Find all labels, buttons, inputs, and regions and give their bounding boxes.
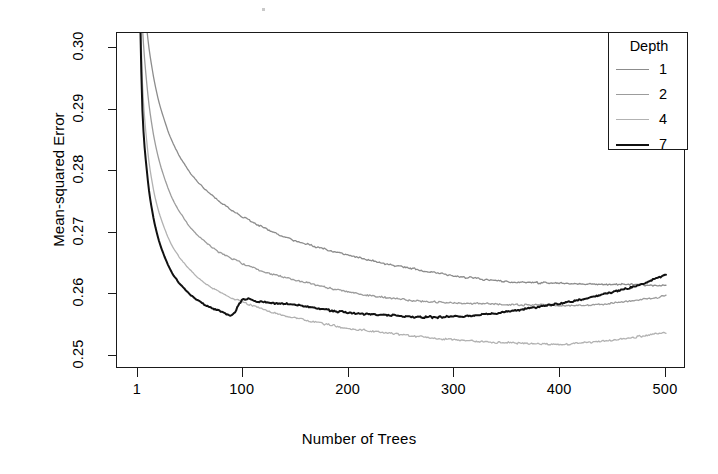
x-tick-mark	[242, 368, 243, 377]
plot-area	[116, 32, 685, 368]
figure-root: Mean-squared Error 0.250.260.270.280.290…	[0, 0, 718, 474]
x-tick-label: 1	[133, 381, 141, 397]
y-tick-mark	[108, 109, 116, 110]
series-line	[138, 33, 666, 286]
y-tick-mark	[108, 47, 116, 48]
legend-title: Depth	[609, 38, 689, 54]
legend-item: 2	[609, 86, 689, 104]
legend-swatch	[616, 144, 649, 146]
y-tick-label: 0.25	[70, 324, 86, 384]
legend-swatch	[616, 69, 649, 70]
series-line	[138, 33, 666, 318]
y-tick-label: 0.28	[70, 139, 86, 199]
x-tick-mark	[665, 368, 666, 377]
y-tick-label: 0.30	[70, 16, 86, 76]
x-tick-label: 300	[441, 381, 466, 397]
x-tick-mark	[348, 368, 349, 377]
legend-label: 1	[659, 61, 681, 77]
y-tick-mark	[108, 293, 116, 294]
legend-swatch	[616, 94, 649, 95]
legend-item: 1	[609, 61, 689, 79]
x-tick-label: 400	[547, 381, 572, 397]
y-tick-mark	[108, 355, 116, 356]
y-axis-title: Mean-squared Error	[50, 80, 67, 280]
y-tick-label: 0.26	[70, 262, 86, 322]
legend-label: 2	[659, 86, 681, 102]
y-tick-label: 0.27	[70, 201, 86, 261]
x-axis-title: Number of Trees	[0, 430, 718, 447]
x-tick-mark	[137, 368, 138, 377]
legend: Depth 1247	[608, 32, 688, 150]
series-line	[138, 33, 666, 306]
legend-label: 7	[659, 136, 681, 152]
y-tick-mark	[108, 170, 116, 171]
x-tick-label: 500	[653, 381, 678, 397]
legend-item: 4	[609, 111, 689, 129]
legend-label: 4	[659, 111, 681, 127]
y-tick-mark	[108, 232, 116, 233]
scan-artifact	[262, 8, 265, 11]
legend-swatch	[616, 119, 649, 120]
x-tick-mark	[559, 368, 560, 377]
x-tick-label: 100	[229, 381, 254, 397]
series-canvas	[117, 33, 686, 369]
legend-item: 7	[609, 136, 689, 154]
y-tick-label: 0.29	[70, 78, 86, 138]
x-tick-mark	[453, 368, 454, 377]
x-tick-label: 200	[335, 381, 360, 397]
